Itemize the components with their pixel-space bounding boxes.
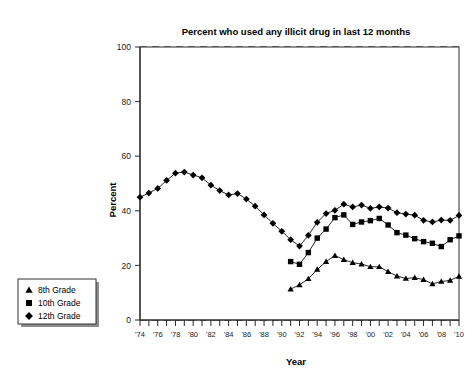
legend-label-12th-grade: 12th Grade (38, 311, 81, 321)
legend-label-8th-grade: 8th Grade (38, 285, 76, 295)
x-tick-label-1998: '98 (348, 330, 358, 339)
y-axis-title: Percent (107, 182, 118, 218)
y-tick-label-0: 0 (126, 315, 131, 325)
data-point (412, 236, 417, 241)
x-tick-label-1988: '88 (259, 330, 269, 339)
x-tick-labels-group: '74'76'78'80'82'84'86'88'90'92'94'96'98'… (135, 330, 464, 339)
chart-legend: 8th Grade10th Grade12th Grade (18, 279, 99, 327)
x-tick-label-1990: '90 (277, 330, 287, 339)
x-tick-label-1980: '80 (188, 330, 198, 339)
x-tick-label-1984: '84 (224, 330, 234, 339)
y-tick-label-100: 100 (117, 42, 131, 52)
x-tick-label-2002: '02 (383, 330, 393, 339)
data-point (377, 216, 382, 221)
chart-canvas: 020406080100 '74'76'78'80'82'84'86'88'90… (0, 0, 473, 386)
data-point (359, 219, 364, 224)
data-point (288, 259, 293, 264)
data-point (315, 235, 320, 240)
x-tick-label-1992: '92 (295, 330, 305, 339)
x-tick-label-2000: '00 (365, 330, 375, 339)
y-tick-labels-group: 020406080100 (117, 42, 131, 325)
x-tick-label-1976: '76 (153, 330, 163, 339)
data-point (323, 226, 328, 231)
x-tick-label-1986: '86 (241, 330, 251, 339)
data-point (421, 239, 426, 244)
data-point (447, 237, 452, 242)
data-point (306, 250, 311, 255)
x-tick-label-2010: '10 (454, 330, 464, 339)
data-point (439, 244, 444, 249)
y-tick-label-60: 60 (122, 151, 132, 161)
x-tick-label-1994: '94 (312, 330, 322, 339)
chart-figure: 020406080100 '74'76'78'80'82'84'86'88'90… (0, 0, 473, 386)
data-point (430, 241, 435, 246)
y-tick-label-20: 20 (122, 261, 132, 271)
data-point (456, 233, 461, 238)
legend-label-10th-grade: 10th Grade (38, 298, 81, 308)
y-tick-label-40: 40 (122, 206, 132, 216)
data-point (394, 230, 399, 235)
x-tick-label-1974: '74 (135, 330, 145, 339)
data-point (350, 222, 355, 227)
data-point (368, 218, 373, 223)
chart-title: Percent who used any illicit drug in las… (182, 26, 411, 37)
y-tick-label-80: 80 (122, 97, 132, 107)
x-tick-label-1978: '78 (171, 330, 181, 339)
legend-marker-square (26, 300, 32, 306)
data-point (341, 212, 346, 217)
x-tick-label-1982: '82 (206, 330, 216, 339)
x-tick-label-2008: '08 (436, 330, 446, 339)
x-tick-label-2006: '06 (419, 330, 429, 339)
data-point (297, 262, 302, 267)
x-tick-label-2004: '04 (401, 330, 411, 339)
data-point (403, 232, 408, 237)
data-point (332, 215, 337, 220)
x-axis-title: Year (286, 356, 306, 367)
x-tick-label-1996: '96 (330, 330, 340, 339)
plot-area-border (140, 47, 459, 320)
data-point (385, 222, 390, 227)
plot-border-group (140, 47, 459, 320)
